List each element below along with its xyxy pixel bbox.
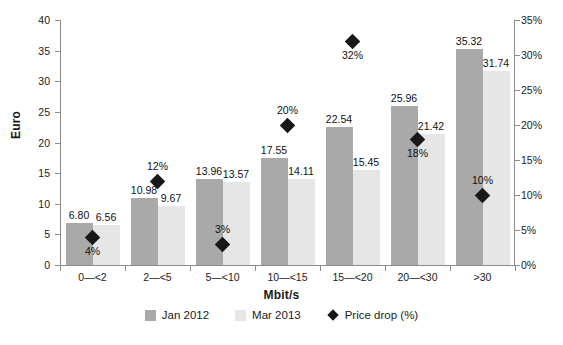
y-axis-right-tick-label: 5% — [521, 225, 536, 236]
bar-value-label: 35.32 — [447, 36, 491, 47]
y-axis-right-tick-label: 25% — [521, 85, 542, 96]
y-axis-right-tick-label: 35% — [521, 15, 542, 26]
y-axis-right-tick — [515, 90, 520, 91]
price-drop-value-label: 3% — [201, 224, 245, 235]
bar-value-label: 25.96 — [382, 93, 426, 104]
y-axis-left-tick-label: 5 — [44, 229, 50, 240]
x-axis-category-label: >30 — [443, 272, 523, 283]
legend-item-label: Mar 2013 — [252, 309, 301, 321]
y-axis-left-tick-label: 35 — [38, 46, 50, 57]
square-swatch-icon — [235, 310, 246, 321]
bar-mar-2013 — [483, 71, 510, 265]
x-axis-tick — [190, 266, 191, 271]
bar-value-label: 6.56 — [84, 212, 128, 223]
bar-mar-2013 — [158, 206, 185, 265]
x-axis-line — [60, 265, 515, 266]
x-axis-tick — [320, 266, 321, 271]
bar-mar-2013 — [353, 170, 380, 265]
bar-value-label: 22.54 — [317, 114, 361, 125]
y-axis-left-tick — [55, 234, 60, 235]
y-axis-left-tick — [55, 143, 60, 144]
price-drop-value-label: 10% — [461, 175, 505, 186]
price-drop-value-label: 18% — [396, 148, 440, 159]
bar-jan-2012 — [326, 127, 353, 265]
price-drop-value-label: 32% — [331, 50, 375, 61]
diamond-marker-icon — [327, 309, 338, 320]
y-axis-right-tick-label: 0% — [521, 260, 536, 271]
price-drop-marker — [280, 117, 296, 133]
y-axis-left-tick — [55, 204, 60, 205]
legend-item[interactable]: Price drop (%) — [327, 309, 419, 321]
bar-mar-2013 — [288, 179, 315, 265]
y-axis-left-tick-label: 25 — [38, 107, 50, 118]
bar-value-label: 15.45 — [344, 157, 388, 168]
x-axis-tick — [125, 266, 126, 271]
y-axis-left-tick — [55, 81, 60, 82]
y-axis-right-tick-label: 15% — [521, 155, 542, 166]
y-axis-right-tick — [515, 195, 520, 196]
y-axis-left-tick — [55, 51, 60, 52]
y-axis-left-tick-label: 20 — [38, 138, 50, 149]
y-axis-left-tick-label: 30 — [38, 76, 50, 87]
y-axis-left-tick-label: 0 — [44, 260, 50, 271]
y-axis-right-tick-label: 20% — [521, 120, 542, 131]
x-axis-tick — [515, 266, 516, 271]
y-axis-right-tick-label: 10% — [521, 190, 542, 201]
bar-jan-2012 — [456, 49, 483, 265]
y-axis-left-tick — [55, 112, 60, 113]
y-axis-left-tick — [55, 173, 60, 174]
x-axis-tick — [255, 266, 256, 271]
y-axis-right-tick-label: 30% — [521, 50, 542, 61]
y-axis-right-tick — [515, 55, 520, 56]
x-axis-tick — [60, 266, 61, 271]
chart-canvas: Euro 0510152025303540 0%5%10%15%20%25%30… — [0, 0, 563, 345]
bar-value-label: 31.74 — [474, 58, 518, 69]
bar-jan-2012 — [131, 198, 158, 265]
y-axis-left-title: Euro — [9, 95, 23, 155]
legend-item-label: Jan 2012 — [162, 309, 209, 321]
bar-value-label: 21.42 — [409, 121, 453, 132]
x-axis-tick — [450, 266, 451, 271]
price-drop-value-label: 4% — [71, 246, 115, 257]
y-axis-left-tick — [55, 20, 60, 21]
y-axis-right-tick — [515, 230, 520, 231]
x-axis-tick — [385, 266, 386, 271]
legend-item-label: Price drop (%) — [345, 309, 419, 321]
legend-item[interactable]: Jan 2012 — [145, 309, 209, 321]
y-axis-left-tick-label: 40 — [38, 15, 50, 26]
price-drop-marker — [345, 33, 361, 49]
y-axis-left-tick-label: 15 — [38, 168, 50, 179]
legend-item[interactable]: Mar 2013 — [235, 309, 301, 321]
bar-value-label: 13.57 — [214, 169, 258, 180]
bar-value-label: 9.67 — [149, 193, 193, 204]
bar-value-label: 14.11 — [279, 166, 323, 177]
y-axis-right-tick — [515, 125, 520, 126]
x-axis-title: Mbit/s — [0, 288, 563, 302]
y-axis-right-tick — [515, 160, 520, 161]
y-axis-right-tick — [515, 20, 520, 21]
price-drop-value-label: 20% — [266, 105, 310, 116]
chart-legend: Jan 2012Mar 2013Price drop (%) — [0, 309, 563, 321]
y-axis-left-line — [60, 20, 61, 266]
y-axis-left-tick-label: 10 — [38, 199, 50, 210]
bar-value-label: 17.55 — [252, 145, 296, 156]
square-swatch-icon — [145, 310, 156, 321]
price-drop-value-label: 12% — [136, 161, 180, 172]
